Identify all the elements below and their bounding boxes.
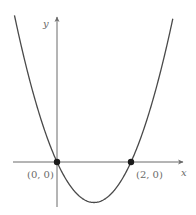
parabola-plot: y x (0, 0) (2, 0) bbox=[0, 0, 196, 215]
point-x-intercept bbox=[128, 159, 134, 165]
point-x-intercept-label: (2, 0) bbox=[136, 169, 163, 180]
x-axis-label: x bbox=[181, 167, 187, 178]
point-origin-label: (0, 0) bbox=[27, 169, 54, 180]
y-axis-label: y bbox=[42, 18, 49, 29]
point-origin bbox=[54, 159, 60, 165]
